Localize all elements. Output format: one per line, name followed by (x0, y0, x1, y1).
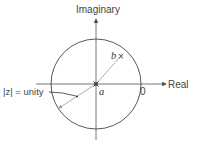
complex-plane-diagram: Imaginary Real |z| = unity a b × 0 (0, 0, 199, 142)
real-axis-label: Real (168, 79, 189, 90)
center-label-a: a (99, 86, 104, 97)
point-b-marker: × (118, 51, 124, 62)
center-marker-icon (94, 82, 99, 87)
point-b-label: b (111, 50, 116, 61)
circle-label-leader (49, 92, 76, 96)
imaginary-axis-label: Imaginary (76, 4, 120, 15)
ray-a-to-b (96, 57, 120, 84)
ray-point (76, 96, 78, 98)
zero-label: 0 (140, 86, 146, 97)
circle-label: |z| = unity (3, 86, 44, 97)
